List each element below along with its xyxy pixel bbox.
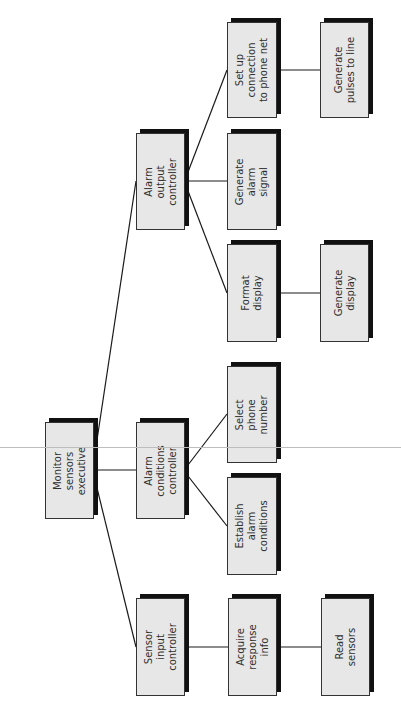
node-format-display[interactable]: Format display bbox=[227, 244, 277, 342]
node-generate-alarm-signal[interactable]: Generate alarm signal bbox=[227, 133, 277, 230]
node-label: Read sensors bbox=[334, 601, 358, 693]
page-fold-line bbox=[0, 447, 401, 448]
node-select-phone-number[interactable]: Select phone number bbox=[227, 366, 277, 463]
box-face: Select phone number bbox=[227, 366, 277, 463]
box-face: Monitor sensors executive bbox=[45, 422, 94, 519]
connector-alarm_conditions-to-select_phone bbox=[188, 414, 227, 465]
node-acquire-response-info[interactable]: Acquire response info bbox=[228, 598, 277, 696]
node-label: Generate display bbox=[333, 247, 357, 339]
box-face: Sensor input controller bbox=[136, 598, 185, 696]
box-face: Set up connection to phone net bbox=[227, 22, 277, 118]
node-label: Establish alarm conditions bbox=[234, 480, 270, 572]
box-face: Alarm output controller bbox=[136, 133, 185, 230]
node-alarm-conditions-controller[interactable]: Alarm conditions controller bbox=[136, 422, 185, 519]
node-generate-pulses-to-line[interactable]: Generate pulses to line bbox=[320, 22, 369, 118]
node-alarm-output-controller[interactable]: Alarm output controller bbox=[136, 133, 185, 230]
box-face: Read sensors bbox=[321, 598, 370, 696]
node-label: Set up connection to phone net bbox=[234, 25, 270, 115]
node-label: Alarm output controller bbox=[143, 136, 179, 227]
connector-monitor-to-sensor_input bbox=[97, 488, 136, 647]
structure-chart: Monitor sensors executive Alarm output c… bbox=[0, 0, 401, 715]
box-face: Format display bbox=[227, 244, 277, 342]
box-face: Establish alarm conditions bbox=[227, 477, 277, 575]
box-face: Acquire response info bbox=[228, 598, 277, 696]
node-label: Acquire response info bbox=[235, 601, 271, 693]
node-monitor-sensors-executive[interactable]: Monitor sensors executive bbox=[45, 422, 94, 519]
node-label: Monitor sensors executive bbox=[52, 425, 88, 516]
connector-alarm_output-to-format_display bbox=[188, 191, 227, 293]
connector-alarm_conditions-to-establish_alarm bbox=[188, 476, 227, 526]
node-sensor-input-controller[interactable]: Sensor input controller bbox=[136, 598, 185, 696]
connector-monitor-to-alarm_output bbox=[97, 181, 136, 440]
node-label: Generate pulses to line bbox=[333, 25, 357, 115]
node-generate-display[interactable]: Generate display bbox=[320, 244, 369, 342]
box-face: Generate alarm signal bbox=[227, 133, 277, 230]
node-read-sensors[interactable]: Read sensors bbox=[321, 598, 370, 696]
node-label: Alarm conditions controller bbox=[143, 425, 179, 516]
box-face: Generate pulses to line bbox=[320, 22, 369, 118]
node-establish-alarm-conditions[interactable]: Establish alarm conditions bbox=[227, 477, 277, 575]
connector-alarm_output-to-setup_connection bbox=[188, 70, 227, 172]
node-label: Format display bbox=[240, 247, 264, 339]
node-label: Sensor input controller bbox=[143, 601, 179, 693]
box-face: Alarm conditions controller bbox=[136, 422, 185, 519]
node-label: Generate alarm signal bbox=[234, 136, 270, 227]
box-face: Generate display bbox=[320, 244, 369, 342]
node-set-up-connection[interactable]: Set up connection to phone net bbox=[227, 22, 277, 118]
